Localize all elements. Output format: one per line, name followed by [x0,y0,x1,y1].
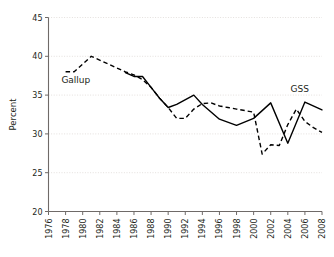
series-group [66,56,322,154]
x-tick-label: 1996 [215,219,224,239]
x-tick-label: 1982 [96,219,105,239]
y-tick-label: 35 [32,91,42,100]
series-line-gallup [66,56,322,154]
x-tick-label: 2000 [250,219,259,239]
annotations-group: GallupGSS [61,75,309,94]
series-annotation-gallup: Gallup [61,75,90,85]
y-axis-title: Percent [8,98,18,131]
y-tick-label: 45 [32,14,42,23]
y-tick-label: 20 [32,208,42,217]
x-tick-label: 1990 [164,219,173,239]
x-tick-label: 2008 [318,219,327,239]
y-tick-label: 40 [32,52,42,61]
x-tick-label: 1992 [181,219,190,239]
chart-container: 202530354045 197619781980198219841986198… [0,0,334,257]
x-tick-label: 1978 [62,219,71,239]
x-tick-label: 1986 [130,219,139,239]
axes-group [49,18,323,212]
y-tick-group: 202530354045 [32,14,48,217]
series-annotation-gss: GSS [291,84,310,94]
x-tick-label: 1994 [198,219,207,239]
y-tick-label: 25 [32,169,42,178]
x-tick-label: 2006 [301,219,310,239]
line-chart-svg: 202530354045 197619781980198219841986198… [0,0,334,257]
x-tick-label: 1976 [45,219,54,239]
y-axis-title-group: Percent [8,98,18,131]
x-tick-label: 1984 [113,219,122,239]
x-tick-label: 1998 [233,219,242,239]
x-tick-label: 2002 [267,219,276,239]
gridlines-group [49,18,323,212]
x-tick-label: 2004 [284,219,293,239]
x-tick-group: 1976197819801982198419861988199019921994… [45,212,328,239]
x-tick-label: 1980 [79,219,88,239]
x-tick-label: 1988 [147,219,156,239]
y-tick-label: 30 [32,130,42,139]
